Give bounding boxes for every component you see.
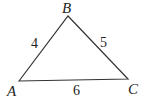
vertex-label-b: B bbox=[62, 0, 71, 16]
vertex-label-c: C bbox=[128, 81, 139, 97]
side-label-ac: 6 bbox=[73, 83, 80, 98]
vertex-label-a: A bbox=[6, 83, 17, 99]
triangle-diagram: A B C 4 5 6 bbox=[0, 0, 145, 105]
side-label-ab: 4 bbox=[31, 36, 38, 51]
side-label-bc: 5 bbox=[100, 35, 107, 50]
